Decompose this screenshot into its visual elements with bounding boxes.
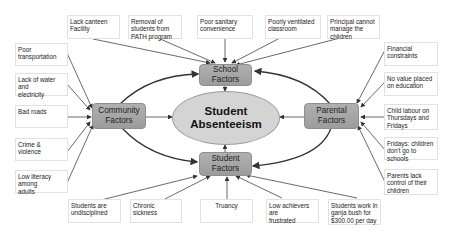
cause-no-value-education: No value placed on education — [384, 72, 438, 96]
cause-text: Poor sanitary — [200, 18, 250, 25]
school-factors-line2: Factors — [200, 75, 251, 85]
cause-text: constraints — [387, 52, 435, 59]
cause-text: Bad roads — [18, 108, 65, 115]
cause-text: electricity — [18, 91, 65, 98]
cause-text: Poorly ventilated — [268, 18, 318, 25]
cause-crime-violence: Crime & violence — [15, 138, 68, 161]
cause-text: on education — [387, 82, 435, 89]
center-title-line1: Student — [173, 105, 279, 118]
cause-poor-transportation: Poor transportation — [15, 43, 68, 66]
student-absenteeism-node: Student Absenteeism — [172, 91, 280, 145]
cause-text: Lack canteen — [70, 18, 117, 25]
cause-text: convenience — [200, 25, 250, 32]
cause-text: Poor transportation — [18, 46, 65, 61]
cause-text: Low literacy among — [18, 173, 65, 188]
student-factors-line2: Factors — [200, 164, 251, 174]
cause-text: classroom — [268, 25, 318, 32]
cause-text: Truancy — [203, 202, 250, 209]
cause-parents-lack-control: Parents lack control of their children — [384, 169, 438, 195]
cause-text: frustrated — [269, 217, 316, 224]
cause-poorly-ventilated: Poorly ventilated classroom — [265, 15, 321, 39]
cause-text: undisciplined — [71, 209, 118, 216]
student-factors-line1: Student — [200, 154, 251, 164]
cause-text: don't go to schools — [387, 147, 435, 162]
center-title-line2: Absenteeism — [173, 118, 279, 131]
cause-low-achievers: Low achievers are frustrated — [266, 199, 319, 223]
cause-text: Child labour on — [387, 107, 435, 114]
cause-text: Students are — [71, 202, 118, 209]
cause-text: Lack of water and — [18, 76, 65, 91]
community-factors-line2: Factors — [93, 116, 145, 126]
student-absenteeism-diagram: Student Absenteeism School Factors Commu… — [0, 0, 451, 236]
school-factors-line1: School — [200, 65, 251, 75]
cause-undisciplined: Students are undisciplined — [68, 199, 121, 223]
cause-child-labour: Child labour on Thursdays and Fridays — [384, 104, 438, 130]
cause-text: students from — [131, 25, 179, 32]
school-factors-node: School Factors — [199, 64, 252, 86]
cause-low-literacy: Low literacy among adults — [15, 170, 68, 193]
cause-text: Facility — [70, 25, 117, 32]
cause-truancy: Truancy — [200, 199, 253, 223]
cause-ganja-work: Students work in ganja bush for $300.00 … — [328, 199, 381, 225]
cause-text: children — [330, 33, 377, 40]
cause-text: children — [387, 187, 435, 194]
cause-text: ganja bush for — [331, 209, 378, 216]
cause-text: No value placed — [387, 75, 435, 82]
cause-text: Financial — [387, 45, 435, 52]
parental-factors-line1: Parental — [305, 106, 358, 116]
cause-text: $300.00 per day — [331, 217, 378, 224]
student-factors-node: Student Factors — [199, 152, 252, 176]
cause-lack-canteen: Lack canteen Facility — [67, 15, 120, 39]
cause-lack-water-electricity: Lack of water and electricity — [15, 73, 68, 96]
cause-text: Crime & violence — [18, 141, 65, 156]
parental-factors-node: Parental Factors — [304, 103, 359, 129]
cause-chronic-sickness: Chronic sickness — [130, 199, 182, 223]
cause-text: Chronic sickness — [133, 202, 179, 217]
cause-removal-path: Removal of students from PATH program — [128, 15, 182, 39]
cause-financial-constraints: Financial constraints — [384, 42, 438, 66]
cause-text: Principal cannot — [330, 18, 377, 25]
cause-fridays-no-school: Fridays: children don't go to schools — [384, 137, 438, 160]
cause-text: Parents lack — [387, 172, 435, 179]
cause-bad-roads: Bad roads — [15, 105, 68, 128]
cause-principal-cannot-manage: Principal cannot manage the children — [327, 15, 380, 39]
cause-text: Fridays — [387, 122, 435, 129]
cause-text: Students work in — [331, 202, 378, 209]
parental-factors-line2: Factors — [305, 116, 358, 126]
community-factors-node: Community Factors — [92, 103, 146, 129]
cause-text: adults — [18, 188, 65, 195]
cause-text: Fridays: children — [387, 140, 435, 147]
cause-text: Low achievers are — [269, 202, 316, 217]
cause-text: Thursdays and — [387, 114, 435, 121]
cause-text: PATH program — [131, 33, 179, 40]
cause-text: control of their — [387, 179, 435, 186]
cause-poor-sanitary: Poor sanitary convenience — [197, 15, 253, 39]
community-factors-line1: Community — [93, 106, 145, 116]
cause-text: Removal of — [131, 18, 179, 25]
cause-text: manage the — [330, 25, 377, 32]
